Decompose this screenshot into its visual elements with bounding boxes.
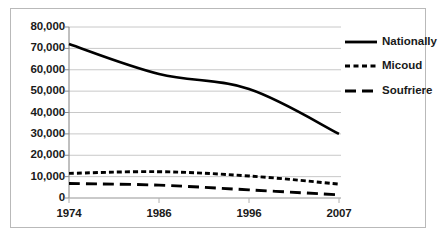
legend-item-label: Nationally xyxy=(382,35,437,47)
y-axis-tick-label: 0 xyxy=(11,191,65,203)
y-axis-tick-label: 40,000 xyxy=(11,106,65,118)
legend-item-label: Soufriere xyxy=(382,84,433,96)
y-axis-tick-label: 50,000 xyxy=(11,84,65,96)
y-axis-tick-label: 60,000 xyxy=(11,63,65,75)
series-line-nationally xyxy=(69,44,339,134)
y-axis-tick-label: 70,000 xyxy=(11,41,65,53)
series-lines xyxy=(69,44,339,195)
x-axis-tick-label: 1996 xyxy=(219,207,279,219)
y-axis-tick-label: 30,000 xyxy=(11,127,65,139)
y-axis-tick-label: 10,000 xyxy=(11,170,65,182)
x-axis-tick-label: 1974 xyxy=(39,207,99,219)
legend-swatches xyxy=(345,42,377,91)
x-axis-tick-label: 1986 xyxy=(129,207,189,219)
series-line-micoud xyxy=(69,172,339,184)
series-line-soufriere xyxy=(69,183,339,194)
chart-plot-area xyxy=(11,9,425,227)
y-axis-tick-label: 20,000 xyxy=(11,148,65,160)
chart-container: 80,00070,00060,00050,00040,00030,00020,0… xyxy=(10,8,426,228)
legend-item-label: Micoud xyxy=(382,59,422,71)
x-axis-tick-label: 2007 xyxy=(309,207,369,219)
y-axis-tick-label: 80,000 xyxy=(11,20,65,32)
